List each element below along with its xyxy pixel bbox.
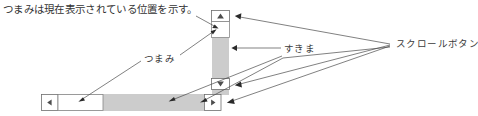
leader-scrollbutton-to-vertical-up bbox=[235, 13, 390, 44]
vertical-scroll-up-button[interactable] bbox=[212, 11, 230, 22]
annotation-gap-label: すきま bbox=[284, 43, 315, 54]
arrowhead-icon bbox=[231, 45, 237, 51]
arrowhead-icon bbox=[235, 13, 242, 19]
leader-thumb-to-vertical-thumb bbox=[180, 29, 217, 55]
diagram-canvas: つまみは現在表示されている位置を示す。 bbox=[0, 0, 478, 116]
scrollbar-diagram: つまみは現在表示されている位置を示す。 bbox=[0, 0, 478, 116]
horizontal-scrollbar[interactable] bbox=[42, 94, 222, 111]
vertical-scrollbar-thumb[interactable] bbox=[212, 22, 230, 38]
horizontal-scroll-right-button[interactable] bbox=[205, 95, 222, 111]
vertical-scroll-down-button[interactable] bbox=[212, 79, 230, 90]
annotation-scroll-button-label: スクロールボタン bbox=[396, 38, 478, 49]
figure-caption: つまみは現在表示されている位置を示す。 bbox=[3, 3, 198, 15]
arrowhead-icon bbox=[227, 98, 235, 104]
leader-gap-to-vertical-track bbox=[231, 45, 281, 51]
horizontal-scrollbar-thumb[interactable] bbox=[58, 95, 103, 111]
annotation-thumb-label: つまみ bbox=[144, 53, 175, 64]
horizontal-scroll-left-button[interactable] bbox=[42, 95, 59, 111]
vertical-scrollbar[interactable] bbox=[212, 11, 230, 96]
